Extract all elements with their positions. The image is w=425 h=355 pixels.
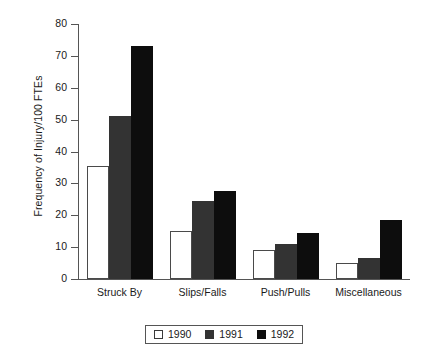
y-axis-tick: 70 <box>71 56 78 57</box>
bar[interactable] <box>214 191 236 279</box>
legend-label: 1990 <box>168 329 191 340</box>
legend-label: 1991 <box>219 329 242 340</box>
bar[interactable] <box>170 231 192 279</box>
y-axis-tick-label: 70 <box>55 49 67 62</box>
y-axis-line <box>78 24 79 279</box>
y-axis-tick: 40 <box>71 152 78 153</box>
y-axis-tick: 50 <box>71 120 78 121</box>
bar[interactable] <box>275 244 297 279</box>
bar[interactable] <box>297 233 319 279</box>
bar-group <box>170 24 236 279</box>
bar[interactable] <box>336 263 358 279</box>
y-axis-tick: 80 <box>71 24 78 25</box>
legend-swatch-icon <box>205 330 214 339</box>
y-axis-tick-label: 40 <box>55 145 67 158</box>
bar[interactable] <box>253 250 275 279</box>
legend-item[interactable]: 1991 <box>205 329 242 340</box>
bar-group <box>253 24 319 279</box>
y-axis-tick: 60 <box>71 88 78 89</box>
bar[interactable] <box>131 46 153 279</box>
y-axis-tick-label: 50 <box>55 113 67 126</box>
y-axis-tick-mark <box>71 215 78 216</box>
x-axis-category-label: Miscellaneous <box>327 286 410 298</box>
legend-swatch-icon <box>257 330 266 339</box>
y-axis-tick: 10 <box>71 247 78 248</box>
chart-legend: 199019911992 <box>145 325 303 344</box>
x-axis-category-label: Slips/Falls <box>161 286 244 298</box>
legend-label: 1992 <box>271 329 294 340</box>
y-axis-tick-label: 10 <box>55 240 67 253</box>
y-axis-tick-mark <box>71 152 78 153</box>
y-axis-tick-label: 30 <box>55 176 67 189</box>
bar[interactable] <box>358 258 380 279</box>
legend-item[interactable]: 1992 <box>257 329 294 340</box>
bar-group <box>87 24 153 279</box>
y-axis-tick-mark <box>71 183 78 184</box>
x-axis-category-label: Push/Pulls <box>244 286 327 298</box>
bar-chart: Frequency of Injury/100 FTEs 01020304050… <box>0 0 425 355</box>
plot-area: 01020304050607080 Struck BySlips/FallsPu… <box>78 24 410 279</box>
y-axis-tick-mark <box>71 56 78 57</box>
y-axis-tick-label: 20 <box>55 208 67 221</box>
y-axis-tick-label: 60 <box>55 81 67 94</box>
y-axis-tick: 0 <box>71 279 78 280</box>
y-axis-tick: 20 <box>71 215 78 216</box>
y-axis-tick-mark <box>71 120 78 121</box>
y-axis-tick-mark <box>71 88 78 89</box>
bar[interactable] <box>380 220 402 279</box>
x-axis-line <box>78 279 410 280</box>
legend-item[interactable]: 1990 <box>154 329 191 340</box>
y-axis-tick-mark <box>71 24 78 25</box>
y-axis-tick-label: 0 <box>61 272 67 285</box>
x-axis-category-label: Struck By <box>78 286 161 298</box>
bar[interactable] <box>192 201 214 279</box>
y-axis-tick-mark <box>71 247 78 248</box>
y-axis-title: Frequency of Injury/100 FTEs <box>32 46 44 246</box>
bar[interactable] <box>87 166 109 279</box>
y-axis-tick-label: 80 <box>55 17 67 30</box>
bar[interactable] <box>109 116 131 279</box>
legend-swatch-icon <box>154 330 163 339</box>
bar-group <box>336 24 402 279</box>
y-axis-tick-mark <box>71 279 78 280</box>
y-axis-tick: 30 <box>71 183 78 184</box>
